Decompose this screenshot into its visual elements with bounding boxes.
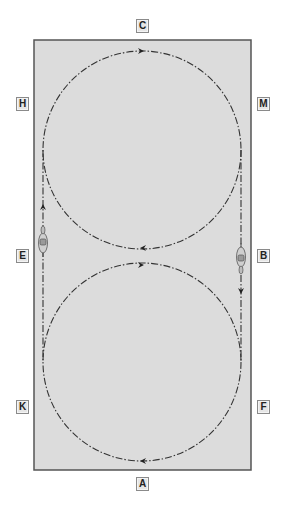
arena [34, 40, 251, 470]
dressage-arena-diagram: C H M E B K F A [0, 0, 286, 510]
marker-f: F [257, 400, 270, 414]
marker-m: M [257, 97, 270, 111]
marker-c: C [136, 19, 149, 33]
marker-a: A [136, 477, 149, 491]
marker-e: E [16, 249, 29, 263]
marker-h: H [16, 97, 29, 111]
marker-k: K [16, 400, 29, 414]
marker-b: B [257, 249, 270, 263]
arena-svg [0, 0, 286, 510]
